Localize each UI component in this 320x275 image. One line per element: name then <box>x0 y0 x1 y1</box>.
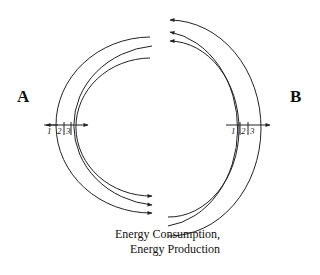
right-tick-3: 3 <box>249 126 255 136</box>
caption-line-1: Energy Consumption, <box>115 227 220 242</box>
right-arcs <box>168 20 261 236</box>
label-b: B <box>290 87 301 107</box>
left-arc-3 <box>76 58 152 196</box>
left-tick-2: 2 <box>57 126 62 136</box>
label-a: A <box>17 87 29 107</box>
right-arc-2 <box>168 32 238 226</box>
right-arc-3 <box>168 41 239 217</box>
right-tick-2: 2 <box>241 126 246 136</box>
right-tick-1: 1 <box>231 126 236 136</box>
right-arc-1 <box>168 20 261 236</box>
left-tick-3: 3 <box>65 126 71 136</box>
caption-line-2: Energy Production <box>115 242 220 257</box>
caption: Energy Consumption, Energy Production <box>115 227 220 257</box>
left-tick-1: 1 <box>47 126 52 136</box>
